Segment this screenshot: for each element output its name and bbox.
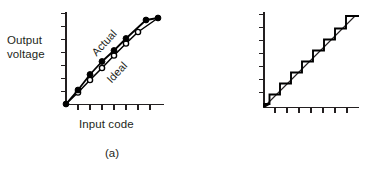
panel-a-x-axis-label: Input code: [79, 118, 134, 132]
panel-a-y-axis-label: Output voltage: [7, 34, 45, 61]
panel-a-x-ticks: [78, 105, 150, 111]
panel-b-plot: [186, 0, 371, 173]
panel-a: Output voltage Input code Actual Ideal (…: [0, 0, 185, 173]
panel-b-y-ticks: [259, 15, 265, 93]
panel-b: Output code Input voltage Ideal Actual (…: [186, 0, 371, 173]
figure-root: Output voltage Input code Actual Ideal (…: [0, 0, 371, 173]
panel-a-caption: (a): [105, 147, 119, 160]
panel-a-y-ticks: [61, 14, 67, 92]
panel-a-plot: [0, 0, 185, 173]
panel-b-x-ticks: [275, 108, 347, 114]
